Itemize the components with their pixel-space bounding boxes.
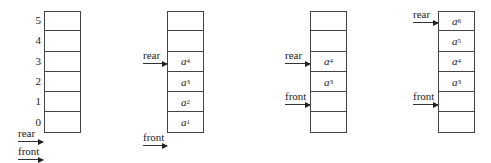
rear-pointer: rear [285,50,310,64]
queue-cell [310,11,347,31]
queue-after-dequeue: a4 a3 [310,11,347,133]
queue-cell [167,31,204,51]
queue-cell [44,11,81,31]
front-label: front [285,91,310,102]
rear-label: rear [18,128,43,139]
queue-cell: a5 [438,31,475,51]
queue-cell: a4 [438,52,475,72]
queue-cell [44,31,81,51]
queue-after-enqueue: a4 a3 a2 a1 [167,11,204,133]
queue-full-overflow: a6 a5 a4 a3 [438,11,475,133]
queue-cell [438,92,475,112]
arrow-right-icon [143,63,167,64]
queue-cell [310,92,347,112]
queue-cell [167,11,204,31]
queue-cell [438,112,475,132]
index-label-3: 3 [31,55,41,67]
front-label: front [413,91,438,102]
queue-cell [310,31,347,51]
queue-cell: a4 [167,52,204,72]
rear-label: rear [413,9,438,20]
queue-cell [44,72,81,92]
queue-cell: a4 [310,52,347,72]
arrow-right-icon [285,63,310,64]
queue-cell: a3 [438,72,475,92]
index-label-5: 5 [31,14,41,26]
front-pointer: front [18,146,43,160]
front-pointer: front [285,91,310,105]
front-pointer: front [143,132,167,146]
queue-cell: a2 [167,92,204,112]
rear-label: rear [285,50,310,61]
index-label-4: 4 [31,34,41,46]
queue-cell [310,112,347,132]
arrow-right-icon [143,145,167,146]
queue-cell: a6 [438,11,475,31]
queue-cell: a1 [167,112,204,132]
arrow-right-icon [18,159,43,160]
rear-pointer: rear [143,50,167,64]
queue-cell: a3 [310,72,347,92]
index-label-1: 1 [31,95,41,107]
arrow-right-icon [285,104,310,105]
queue-empty [44,11,81,133]
rear-pointer: rear [413,9,438,23]
front-label: front [143,132,167,143]
queue-cell: a3 [167,72,204,92]
index-label-2: 2 [31,75,41,87]
rear-pointer: rear [18,128,43,142]
front-pointer: front [413,91,438,105]
rear-label: rear [143,50,167,61]
front-label: front [18,146,43,157]
queue-cell [44,92,81,112]
arrow-right-icon [413,22,438,23]
queue-cell [44,112,81,132]
arrow-right-icon [413,104,438,105]
arrow-right-icon [18,141,43,142]
queue-cell [44,52,81,72]
